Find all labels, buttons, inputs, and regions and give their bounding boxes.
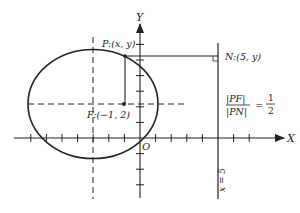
directrix-label: x = 5 xyxy=(217,168,227,192)
point-p xyxy=(123,54,127,58)
ratio-value-num: 1 xyxy=(268,93,274,103)
ellipse-diagram: Y X O P:(x, y) N:(5, y) F:(−1, 2) |PF| |… xyxy=(0,0,300,213)
ratio-denominator: |PN| xyxy=(226,106,247,118)
ratio-equals: = xyxy=(255,100,263,111)
origin-label: O xyxy=(142,141,150,152)
ratio-numerator: |PF| xyxy=(226,93,245,105)
y-axis-label: Y xyxy=(136,11,145,24)
focus-label: F:(−1, 2) xyxy=(86,109,130,120)
point-p-label: P:(x, y) xyxy=(101,38,136,49)
ratio-value-den: 2 xyxy=(268,106,274,116)
x-axis-label: X xyxy=(286,132,296,145)
y-axis xyxy=(136,24,144,198)
focus-point xyxy=(122,102,126,106)
eccentricity-ratio: |PF| |PN| = 1 2 xyxy=(226,93,275,118)
point-n-label: N:(5, y) xyxy=(224,51,261,62)
right-angle-marker xyxy=(213,56,218,61)
